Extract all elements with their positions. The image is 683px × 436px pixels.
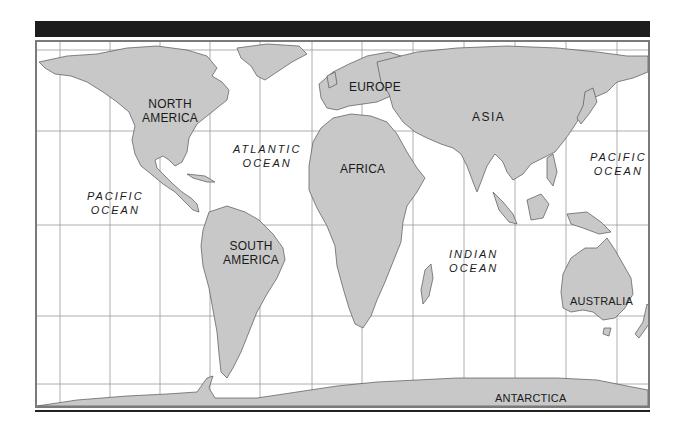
label-atlantic-ocean: ATLANTIC OCEAN [233,142,301,170]
new-zealand [635,304,648,338]
madagascar [421,264,433,304]
map-canvas [37,42,648,406]
greenland [237,44,307,80]
label-antarctica: ANTARCTICA [495,391,566,405]
label-europe: EUROPE [349,80,401,94]
label-africa: AFRICA [340,162,385,176]
africa [309,114,425,328]
caribbean [187,174,215,182]
south-america [201,206,285,378]
label-pacific-ocean-west: PACIFIC OCEAN [87,189,144,217]
map-footer-rule [35,410,650,412]
label-north-america: NORTH AMERICA [142,97,198,125]
tasmania [603,328,611,336]
borneo [527,194,549,220]
label-indian-ocean: INDIAN OCEAN [449,247,498,275]
label-australia: AUSTRALIA [570,294,633,308]
world-map: NORTH AMERICA EUROPE ASIA AFRICA SOUTH A… [35,40,650,408]
map-header-bar [35,21,650,37]
philippines [547,154,557,186]
label-pacific-ocean-east: PACIFIC OCEAN [590,150,647,178]
label-asia: ASIA [472,110,505,124]
label-south-america: SOUTH AMERICA [223,239,279,267]
sumatra [493,192,517,224]
new-guinea [567,212,611,234]
north-america [39,46,229,212]
